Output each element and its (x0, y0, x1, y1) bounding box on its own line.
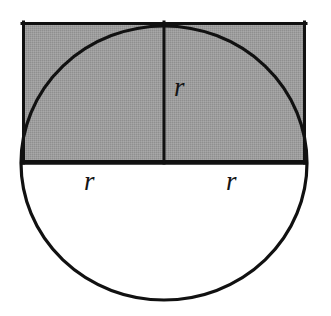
label-r-bottom-left: r (84, 168, 95, 195)
label-r-vertical: r (174, 74, 185, 101)
geometry-figure: r r r (0, 0, 331, 316)
label-r-bottom-right: r (226, 168, 237, 195)
figure-canvas (0, 0, 331, 316)
